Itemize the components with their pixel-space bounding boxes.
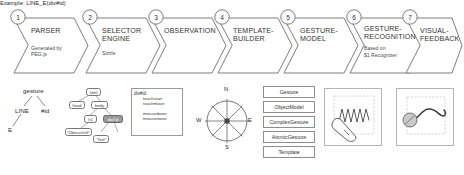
step-number-2: 2 <box>84 14 96 21</box>
step-number-5: 5 <box>282 14 294 21</box>
dom-node-heading-text[interactable]: "Überschrift" <box>65 128 92 136</box>
diagram-canvas: 1 2 3 4 5 6 7 PARSER Generated by PEG.js… <box>0 0 464 175</box>
dom-node-body[interactable]: body <box>91 101 108 109</box>
parse-node-id: #id <box>41 107 49 114</box>
compass-label-w: W <box>196 117 201 123</box>
step-number-6: 6 <box>348 14 360 21</box>
step-number-3: 3 <box>150 14 162 21</box>
class-atomicgesture[interactable]: AtomicGesture <box>263 131 315 143</box>
class-complexgesture[interactable]: ComplexGesture <box>263 116 315 128</box>
step-number-4: 4 <box>216 14 228 21</box>
parse-tree: gesture LINE #id E <box>4 86 66 146</box>
recognized-stroke-icon <box>397 89 455 147</box>
class-gesture[interactable]: Gesture <box>263 86 315 98</box>
dom-tree: html head body h1 div#id "Überschrift" "… <box>62 86 124 146</box>
visual-feedback-panel <box>396 88 454 146</box>
parse-node-leaf: E <box>8 126 12 133</box>
dom-node-text[interactable]: "Text" <box>93 135 109 143</box>
parse-node-line: LINE <box>15 107 29 114</box>
event-list-panel: div#id touchstart touchmove mousedown mo… <box>131 88 183 136</box>
class-objectmodel[interactable]: ObjectModel <box>263 101 315 113</box>
step-number-7: 7 <box>404 14 416 21</box>
dom-node-div-id[interactable]: div#id <box>103 115 123 123</box>
class-list: Gesture ObjectModel ComplexGesture Atomi… <box>263 86 315 161</box>
parse-tree-edges <box>4 86 66 146</box>
event-touchmove: touchmove <box>132 101 182 107</box>
compass-label-s: S <box>225 144 229 150</box>
pipeline-chevrons <box>0 0 464 84</box>
compass-label-n: N <box>224 86 228 92</box>
dom-node-head[interactable]: head <box>69 101 85 109</box>
hand-input-panel <box>324 88 382 146</box>
compass-label-e: E <box>248 117 252 123</box>
pipeline: 1 2 3 4 5 6 7 PARSER Generated by PEG.js… <box>0 0 464 84</box>
compass-rose: N E S W <box>196 86 258 158</box>
dom-node-h1[interactable]: h1 <box>84 115 97 123</box>
parse-node-root: gesture <box>23 87 44 94</box>
class-template[interactable]: Template <box>263 146 315 158</box>
hand-drawing-icon <box>325 89 383 147</box>
step-number-1: 1 <box>12 14 24 21</box>
event-mousemove: mousemove <box>132 116 182 122</box>
dom-node-html[interactable]: html <box>86 88 101 96</box>
